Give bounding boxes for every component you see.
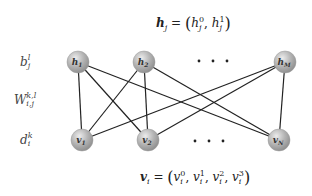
node-vN: vN bbox=[268, 129, 290, 151]
visible-vector-equation: vi = (v0i, v1i, v2i, v3i) bbox=[140, 168, 250, 187]
node-group: h1h2hMv1v2vN bbox=[67, 51, 296, 151]
edge-h2-vN bbox=[144, 62, 279, 140]
node-v2: v2 bbox=[137, 129, 159, 151]
node-h2: h2 bbox=[133, 51, 155, 73]
visible-vector-symbol: v bbox=[140, 170, 147, 184]
node-hM: hM bbox=[274, 51, 296, 73]
visible-ellipsis bbox=[194, 140, 225, 143]
hidden-ellipsis bbox=[198, 60, 229, 63]
edge-h1-vN bbox=[78, 62, 279, 140]
edge-hM-vN bbox=[279, 62, 285, 140]
hidden-vector-symbol: h bbox=[156, 16, 165, 30]
hidden-bias-label: blj bbox=[20, 54, 30, 70]
edge-h2-v2 bbox=[144, 62, 148, 140]
edge-h1-v1 bbox=[78, 62, 82, 140]
visible-bias-label: dki bbox=[20, 132, 33, 148]
weights-label: Wk,li,j bbox=[14, 92, 36, 108]
node-v1: v1 bbox=[71, 129, 93, 151]
edge-group bbox=[78, 62, 285, 140]
hidden-vector-equation: hj = (h0j, h1j) bbox=[156, 14, 231, 33]
node-h1: h1 bbox=[67, 51, 89, 73]
edge-hM-v2 bbox=[148, 62, 285, 140]
